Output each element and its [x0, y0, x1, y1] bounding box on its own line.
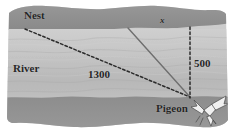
label-pigeon: Pigeon	[156, 103, 188, 114]
label-vertical-length: 500	[194, 58, 211, 69]
label-hypotenuse-length: 1300	[88, 69, 110, 80]
river-diagram-figure: Nest River Pigeon 1300 500 x	[0, 0, 235, 140]
near-bank	[0, 96, 235, 140]
label-nest: Nest	[24, 10, 45, 21]
label-river: River	[13, 63, 39, 74]
label-horizontal-variable: x	[160, 16, 165, 25]
